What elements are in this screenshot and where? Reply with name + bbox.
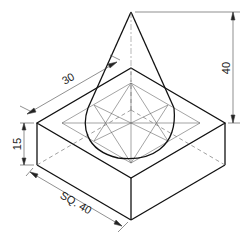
dim-label-block-side: SQ. 40 <box>58 189 94 217</box>
construction-lines <box>62 83 200 163</box>
dim-label-cone-slant: 30 <box>60 70 77 87</box>
dim-label-block-height: 15 <box>11 138 23 150</box>
dimension-cone-slant <box>20 55 120 114</box>
dim-label-cone-height: 40 <box>220 62 232 74</box>
isometric-drawing: 40 30 15 SQ. 40 <box>0 0 252 239</box>
